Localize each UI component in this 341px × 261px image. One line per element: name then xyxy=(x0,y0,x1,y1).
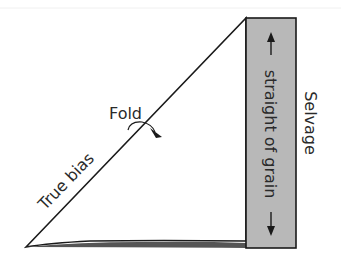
fold-label: Fold xyxy=(109,104,142,123)
fabric-triangle xyxy=(26,18,246,247)
bias-fold-diagram: straight of grain Selvage Fold True bias xyxy=(0,0,341,261)
selvage-label: Selvage xyxy=(301,91,320,155)
straight-of-grain-label: straight of grain xyxy=(261,70,280,199)
